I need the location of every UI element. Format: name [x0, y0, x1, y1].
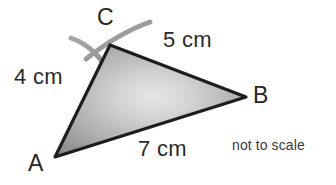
- vertex-label-b: B: [253, 84, 268, 107]
- triangle-diagram: C B A 4 cm 5 cm 7 cm not to scale: [0, 0, 336, 185]
- side-label-ab: 7 cm: [138, 138, 187, 160]
- vertex-label-c: C: [97, 6, 114, 29]
- not-to-scale-note: not to scale: [232, 138, 305, 152]
- side-label-ca: 4 cm: [14, 66, 63, 88]
- vertex-label-a: A: [28, 152, 43, 175]
- side-label-cb: 5 cm: [163, 29, 212, 51]
